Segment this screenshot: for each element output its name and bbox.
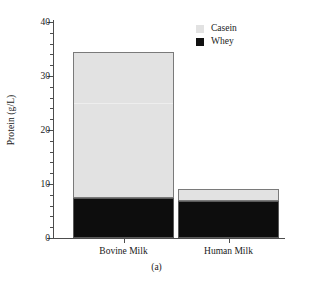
legend-label-whey: Whey [211, 37, 234, 47]
y-minor-tick [50, 119, 54, 120]
y-minor-tick [50, 195, 54, 196]
bar-segment-whey[interactable] [178, 201, 279, 238]
x-tick-label-human-milk: Human Milk [204, 246, 253, 256]
bar-texture-line [74, 103, 173, 104]
figure-panel-a: Protein (g/L) 0 10 20 30 40 [0, 0, 313, 289]
y-tick-label-40: 40 [41, 17, 51, 27]
y-minor-tick [50, 65, 54, 66]
legend: Casein Whey [196, 22, 237, 48]
y-minor-tick [50, 206, 54, 207]
y-minor-tick [50, 108, 54, 109]
legend-item-whey[interactable]: Whey [196, 35, 237, 48]
y-minor-tick [50, 98, 54, 99]
y-minor-tick [50, 162, 54, 163]
y-minor-tick [50, 87, 54, 88]
bar-segment-casein[interactable] [178, 189, 279, 201]
bar-bovine-milk[interactable] [73, 52, 174, 238]
legend-swatch-casein-icon [196, 25, 204, 33]
bar-human-milk[interactable] [178, 189, 279, 238]
y-minor-tick [50, 152, 54, 153]
x-axis-line [53, 238, 285, 239]
y-axis-title: Protein (g/L) [0, 0, 22, 240]
legend-label-casein: Casein [211, 24, 237, 34]
x-tick-human-milk [229, 238, 230, 243]
y-minor-tick [50, 54, 54, 55]
y-axis-title-text: Protein (g/L) [6, 95, 16, 146]
y-minor-tick [50, 227, 54, 228]
y-minor-tick [50, 173, 54, 174]
figure-caption: (a) [0, 262, 313, 272]
y-minor-tick [50, 141, 54, 142]
x-tick-bovine-milk [124, 238, 125, 243]
plot-area: 0 10 20 30 40 [53, 22, 285, 238]
y-tick-label-20: 20 [41, 125, 51, 135]
bar-segment-casein[interactable] [73, 52, 174, 198]
y-tick-label-0: 0 [45, 233, 50, 243]
y-tick-label-30: 30 [41, 71, 51, 81]
y-minor-tick [50, 33, 54, 34]
y-tick-label-10: 10 [41, 179, 51, 189]
y-minor-tick [50, 44, 54, 45]
y-minor-tick [50, 216, 54, 217]
legend-item-casein[interactable]: Casein [196, 22, 237, 35]
x-tick-label-bovine-milk: Bovine Milk [99, 246, 147, 256]
legend-swatch-whey-icon [196, 38, 204, 46]
y-axis-line [53, 20, 54, 239]
bar-segment-whey[interactable] [73, 198, 174, 238]
